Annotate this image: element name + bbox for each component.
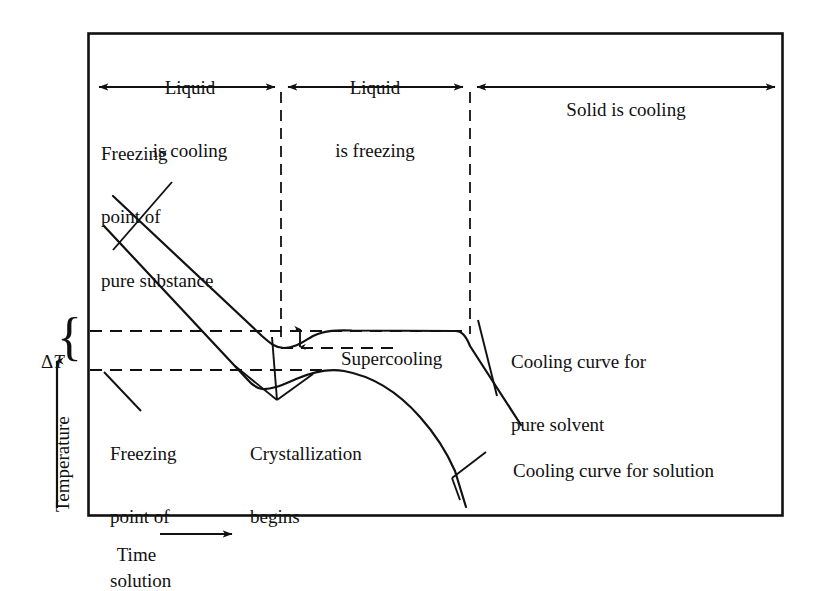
- delta-t-brace: {: [57, 311, 82, 363]
- x-axis-label: Time: [98, 523, 156, 587]
- label-crystallization-line2: begins: [250, 506, 362, 527]
- x-axis-label-text: Time: [117, 544, 156, 565]
- zone-label-liquid-freezing-line2: is freezing: [305, 140, 445, 161]
- leader-crystallization-a: [235, 366, 277, 400]
- label-curve-solution-text: Cooling curve for solution: [513, 460, 714, 481]
- label-crystallization-line1: Crystallization: [250, 443, 362, 464]
- zone-label-liquid-freezing-line1: Liquid: [305, 77, 445, 98]
- y-axis-label: Temperature: [52, 416, 73, 512]
- zone-label-solid-cooling: Solid is cooling: [521, 56, 731, 162]
- label-freezing-point-pure: Freezing point of pure substance: [101, 100, 213, 334]
- leader-curve-pure-solvent: [478, 320, 497, 396]
- label-supercooling: Supercooling: [322, 327, 442, 391]
- zone-label-liquid-cooling-line1: Liquid: [120, 77, 260, 98]
- label-freezing-point-solution-line1: Freezing: [110, 443, 176, 464]
- label-curve-pure-solvent-line2: pure solvent: [511, 414, 646, 435]
- label-crystallization-begins: Crystallization begins: [250, 400, 362, 570]
- leader-curve-solution: [452, 452, 486, 478]
- label-supercooling-text: Supercooling: [341, 348, 442, 369]
- label-curve-pure-solvent-line1: Cooling curve for: [511, 351, 646, 372]
- y-axis-label-text: Temperature: [52, 416, 73, 512]
- label-freezing-point-pure-line2: point of: [101, 206, 213, 227]
- label-curve-solution: Cooling curve for solution: [494, 439, 714, 503]
- zone-label-solid-cooling-line1: Solid is cooling: [521, 99, 731, 120]
- label-delta-t-symbol: Δ: [41, 351, 53, 372]
- label-freezing-point-pure-line3: pure substance: [101, 270, 213, 291]
- label-freezing-point-pure-line1: Freezing: [101, 143, 213, 164]
- leader-crystallization-c: [277, 374, 313, 400]
- zone-label-liquid-freezing: Liquid is freezing: [305, 34, 445, 204]
